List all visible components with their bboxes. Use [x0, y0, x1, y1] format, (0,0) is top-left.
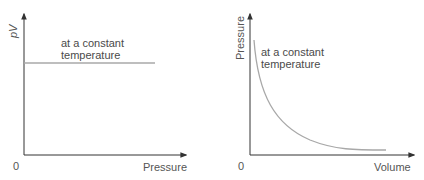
annotation-line-2: temperature [261, 58, 320, 70]
origin-label: 0 [13, 160, 19, 172]
x-axis-label: Pressure [143, 161, 187, 173]
y-axis-label: Pressure [234, 16, 246, 60]
origin-label: 0 [238, 160, 244, 172]
x-axis-label: Volume [374, 161, 411, 173]
annotation-line-1: at a constant [61, 37, 124, 49]
y-axis-label: pV [7, 23, 19, 39]
annotation-line-2: temperature [61, 49, 120, 61]
pressure-vs-volume-chart: Pressure at a constant temperature 0 Vol… [234, 14, 414, 173]
pv-vs-pressure-chart: pV at a constant temperature 0 Pressure [7, 14, 187, 173]
boyles-law-figure: pV at a constant temperature 0 Pressure … [0, 0, 424, 180]
annotation-line-1: at a constant [261, 46, 324, 58]
